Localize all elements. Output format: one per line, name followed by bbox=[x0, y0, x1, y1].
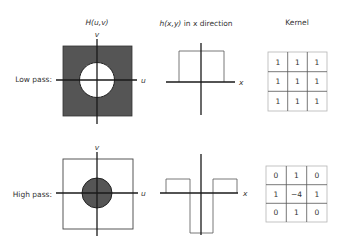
kernel-cell: 1 bbox=[315, 58, 320, 67]
kernel-cell: 0 bbox=[274, 208, 279, 217]
u-axis-label: u bbox=[141, 189, 146, 198]
low-pass-spatial-plot: x bbox=[166, 43, 244, 115]
x-axis-label: x bbox=[238, 78, 244, 87]
kernel-cell: 1 bbox=[315, 190, 320, 199]
kernel-cell: 1 bbox=[294, 171, 299, 180]
header-spatial-rest: in x direction bbox=[181, 19, 233, 28]
kernel-cell: 1 bbox=[276, 58, 281, 67]
kernel-cell: 1 bbox=[276, 77, 281, 86]
kernel-cell: 1 bbox=[295, 58, 300, 67]
high-pass-kernel: 0 1 0 1 −4 1 0 1 0 bbox=[266, 166, 327, 222]
kernel-cell: 0 bbox=[315, 208, 320, 217]
header-frequency-response: H(u,v) bbox=[85, 18, 108, 27]
kernel-cell: 1 bbox=[294, 208, 299, 217]
row-label-high-pass: High pass: bbox=[13, 190, 52, 199]
header-spatial-response: h(x,y) in x direction bbox=[159, 19, 232, 28]
filter-diagram: H(u,v) h(x,y) in x direction Kernel Low … bbox=[0, 0, 340, 245]
low-pass-kernel: 1 1 1 1 1 1 1 1 1 bbox=[268, 52, 327, 111]
kernel-cell: 1 bbox=[274, 190, 279, 199]
kernel-cell: 1 bbox=[315, 77, 320, 86]
kernel-cell: 0 bbox=[315, 171, 320, 180]
kernel-cell: −4 bbox=[291, 190, 302, 199]
high-pass-frequency-plot: u v bbox=[56, 143, 146, 236]
x-axis-label: x bbox=[242, 189, 248, 198]
v-axis-label: v bbox=[95, 30, 100, 39]
kernel-cell: 0 bbox=[274, 171, 279, 180]
kernel-cell: 1 bbox=[315, 97, 320, 106]
low-pass-frequency-plot: u v bbox=[56, 30, 146, 124]
high-pass-row: High pass: u v x 0 1 0 1 bbox=[13, 143, 327, 236]
high-pass-spatial-plot: x bbox=[160, 154, 248, 235]
kernel-cell: 1 bbox=[295, 77, 300, 86]
header-kernel: Kernel bbox=[285, 18, 309, 27]
v-axis-label: v bbox=[95, 143, 100, 152]
u-axis-label: u bbox=[141, 76, 146, 85]
kernel-cell: 1 bbox=[276, 97, 281, 106]
header-spatial-italic: h(x,y) bbox=[159, 19, 181, 28]
row-label-low-pass: Low pass: bbox=[15, 75, 52, 84]
low-pass-row: Low pass: u v x 1 1 1 1 1 bbox=[15, 30, 327, 124]
kernel-cell: 1 bbox=[295, 97, 300, 106]
